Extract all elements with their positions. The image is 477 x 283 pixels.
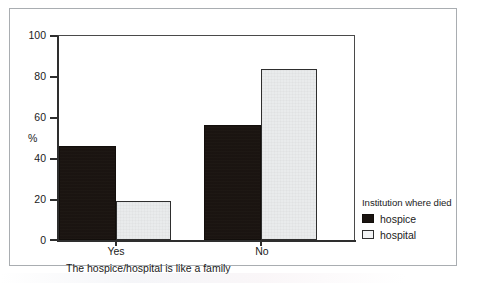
- y-tick-60: [50, 117, 57, 119]
- bar-yes-hospice: [59, 146, 116, 240]
- bar-no-hospital: [261, 69, 317, 240]
- legend-item-hospital: hospital: [362, 227, 477, 242]
- y-tick-80: [50, 76, 57, 78]
- y-axis-title: %: [28, 132, 37, 144]
- bar-no-hospice: [204, 125, 261, 240]
- legend-label-hospital: hospital: [380, 229, 416, 241]
- y-tick-label-0: 0: [10, 234, 46, 246]
- bar-yes-hospital: [116, 201, 171, 240]
- y-tick-100: [50, 35, 57, 37]
- y-tick-label-60: 60: [10, 111, 46, 123]
- y-tick-20: [50, 199, 57, 201]
- y-tick-0: [50, 239, 57, 241]
- x-category-label-no: No: [242, 245, 282, 257]
- legend-item-hospice: hospice: [362, 211, 477, 226]
- y-tick-label-100: 100: [10, 29, 46, 41]
- legend-swatch-hospital-icon: [362, 230, 374, 239]
- y-tick-label-80: 80: [10, 70, 46, 82]
- y-tick-40: [50, 158, 57, 160]
- figure-frame: 100 80 60 40 20 0 % Yes No The hospice/h…: [9, 8, 457, 266]
- legend-title: Institution where died: [362, 197, 477, 208]
- x-axis-caption: The hospice/hospital is like a family: [66, 262, 231, 274]
- legend-swatch-hospice-icon: [362, 214, 374, 223]
- scan-tint-artifact: [0, 273, 477, 283]
- y-tick-label-40: 40: [10, 152, 46, 164]
- legend-label-hospice: hospice: [380, 213, 416, 225]
- legend: Institution where died hospice hospital: [362, 197, 477, 242]
- x-axis-line: [57, 240, 356, 242]
- x-category-label-yes: Yes: [96, 245, 136, 257]
- y-tick-label-20: 20: [10, 193, 46, 205]
